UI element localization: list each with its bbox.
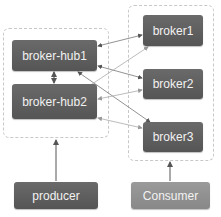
edge-hub1-broker1: [98, 35, 142, 46]
node-broker-hub1[interactable]: broker-hub1: [12, 40, 97, 71]
node-broker3[interactable]: broker3: [143, 122, 203, 152]
node-label: broker1: [153, 24, 194, 38]
node-label: broker3: [153, 130, 194, 144]
edge-hub2-broker3: [98, 118, 142, 128]
node-broker-hub2[interactable]: broker-hub2: [12, 84, 97, 119]
node-producer[interactable]: producer: [14, 182, 98, 209]
node-label: producer: [32, 189, 79, 203]
edge-hub2-broker2: [98, 90, 142, 99]
node-broker1[interactable]: broker1: [143, 15, 203, 46]
node-label: broker-hub1: [22, 49, 87, 63]
node-label: broker-hub2: [22, 95, 87, 109]
node-broker2[interactable]: broker2: [143, 69, 203, 99]
node-consumer[interactable]: Consumer: [131, 182, 210, 209]
node-label: broker2: [153, 77, 194, 91]
node-label: Consumer: [143, 189, 198, 203]
